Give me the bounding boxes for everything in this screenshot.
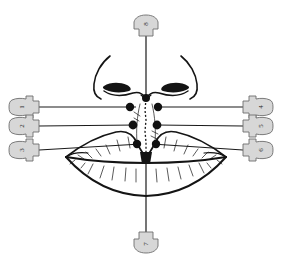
left-oral-commissure	[66, 153, 88, 157]
landmark-dot-right-philtrum-top	[154, 103, 162, 111]
pin-label-1[interactable]: 1	[9, 96, 39, 118]
landmark-dot-right-philtrum-mid	[153, 121, 162, 130]
pin-label-6[interactable]: 6	[243, 139, 273, 161]
midline-philtrum-dashes	[145, 99, 146, 153]
pin-number-5: 5	[257, 124, 265, 128]
pin-number-7: 7	[142, 242, 150, 246]
anatomical-diagram: 1 2 3 4 5 6 7	[0, 0, 282, 265]
figure-container: 1 2 3 4 5 6 7	[0, 0, 282, 265]
pin-number-6: 6	[257, 148, 265, 152]
pin-label-7[interactable]: 7	[134, 232, 158, 253]
philtrum-hatch-a	[134, 112, 140, 116]
right-nostril-shape	[161, 83, 189, 93]
pin-label-4[interactable]: 4	[243, 96, 273, 118]
pin-number-8: 8	[142, 22, 150, 26]
pin-number-2: 2	[18, 124, 26, 128]
leader-line-5	[156, 125, 243, 126]
philtrum-left-ridge	[137, 104, 140, 142]
nose-right-outline	[181, 56, 197, 99]
philtrum-hatch-b	[134, 118, 139, 121]
nose-left-ala	[104, 91, 146, 98]
pin-number-3: 3	[18, 148, 26, 152]
pin-label-8[interactable]: 8	[134, 15, 158, 36]
philtrum-hatch-d	[151, 136, 157, 139]
leader-line-2	[39, 125, 136, 126]
nose-right-ala	[146, 91, 188, 98]
leader-line-3	[39, 144, 141, 150]
pin-number-4: 4	[257, 105, 265, 109]
right-oral-commissure	[204, 153, 226, 157]
pin-label-3[interactable]: 3	[9, 139, 39, 161]
philtrum-hatch-c	[152, 131, 158, 134]
pin-number-1: 1	[18, 105, 26, 109]
landmark-dot-left-philtrum-mid	[129, 121, 138, 130]
landmark-dot-right-cupids-bow	[152, 140, 160, 148]
pin-label-2[interactable]: 2	[9, 115, 39, 137]
landmark-dots-group	[126, 94, 162, 164]
facial-midline-group	[145, 36, 146, 232]
landmark-dot-upper-lip-tubercle	[140, 152, 152, 164]
landmark-dot-left-cupids-bow	[133, 140, 141, 148]
landmark-dot-left-philtrum-top	[126, 103, 134, 111]
landmark-dot-subnasale	[142, 94, 150, 102]
pin-label-5[interactable]: 5	[243, 115, 273, 137]
left-nostril-shape	[103, 83, 131, 93]
